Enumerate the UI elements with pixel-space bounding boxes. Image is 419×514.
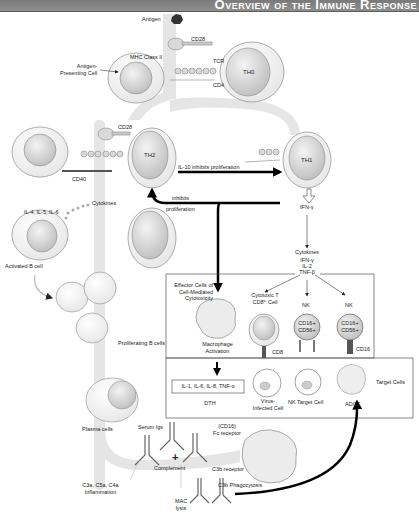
cytokine-tnf: TNF-β	[290, 269, 324, 276]
to-nk2-arrow	[315, 275, 345, 295]
b-cell-upper	[12, 127, 68, 177]
il-list-label: IL-4, IL-5, IL-6	[24, 209, 59, 216]
hollow-down-arrow	[303, 189, 315, 203]
th2-cell-lower	[128, 208, 176, 268]
activated-b-label: Activated B cell	[5, 263, 43, 270]
cd4-label: CD4	[213, 82, 224, 89]
il10-label: IL-10 inhibits proliferation	[178, 164, 239, 171]
effector-label: Effector Cells of Cell-Mediated Cytotoxi…	[163, 282, 213, 302]
b-cell-arrow	[35, 275, 52, 298]
nk-target-cell	[295, 369, 321, 395]
apc-cell	[108, 53, 164, 103]
activated-b-cell	[12, 210, 68, 260]
c3b-phago-label: C3b Phagocytosis	[218, 482, 262, 489]
mac-label: MAC lysis	[166, 498, 196, 511]
dth-label: DTH	[195, 400, 225, 407]
cytotoxic-t-label: Cytotoxic T CD8⁺ Cell	[245, 292, 285, 305]
plasma-label: Plasma cells	[82, 426, 113, 433]
nk1-label: NK	[302, 302, 310, 309]
cd16-cd56-1: CD16+ CD56+	[297, 320, 317, 333]
cd16-label: CD16	[356, 346, 370, 353]
c3a-label: C3a, C5a, C4a Inflammation	[78, 482, 123, 495]
cd28-mid-label: CD28	[118, 124, 132, 131]
phagocyte-icon	[242, 430, 297, 483]
complement-label: Complement	[154, 465, 185, 472]
th2-label: TH2	[144, 152, 155, 159]
proliferating-b-label: Proliferating B cells	[118, 340, 165, 347]
receptor-complex-th1	[245, 149, 280, 162]
cd16-cd56-2: CD16+ CD56+	[340, 320, 360, 333]
macrophage-label: Macrophage Activation	[195, 341, 240, 354]
cytokines-left-label: Cytokines	[92, 200, 116, 207]
adcc-label: ADCC	[345, 401, 361, 408]
to-macrophage-arrow	[218, 203, 220, 290]
th0-label: TH0	[243, 69, 254, 76]
to-ctl-arrow	[265, 275, 300, 292]
cytokines-right-label: Cytokines	[290, 249, 324, 256]
ifn-label: IFN-γ	[300, 204, 313, 211]
cd28-top-label: CD28	[191, 36, 205, 43]
fc-receptor-label: (CD16) Fc receptor	[212, 423, 242, 436]
nk-target-label: NK Target Cell	[288, 399, 323, 406]
plus-sign: +	[172, 454, 178, 461]
target-cells-label: Target Cells	[376, 379, 405, 386]
proliferation-label: proliferation	[166, 206, 195, 213]
serum-igs-label: Serum Igs	[138, 424, 163, 431]
cd40-label: CD40	[72, 176, 86, 183]
th1-label: TH1	[301, 157, 312, 164]
cytokine-dots	[65, 204, 90, 220]
virus-infected-cell	[253, 369, 281, 397]
tcr-label: TCR	[213, 58, 224, 65]
macrophage-icon	[196, 299, 236, 339]
antigen-label: Antigen	[142, 16, 161, 23]
adcc-target-cell	[337, 364, 366, 394]
cd8-label: CD8	[272, 349, 283, 356]
c3b-receptor-label: C3b receptor	[212, 466, 244, 473]
immune-response-diagram	[0, 0, 419, 514]
virus-infected-label: Virus- Infected Cell	[250, 398, 286, 411]
plasma-cell	[86, 378, 138, 422]
inhibits-label: inhibits	[172, 195, 189, 202]
proliferating-b-cells	[56, 272, 116, 343]
il-box-label: IL-1, IL-6, IL-8, TNF-α	[172, 383, 244, 390]
mhc-label: MHC Class II	[130, 54, 162, 61]
nk2-label: NK	[345, 302, 353, 309]
apc-label: Antigen- Presenting Cell	[60, 63, 97, 76]
